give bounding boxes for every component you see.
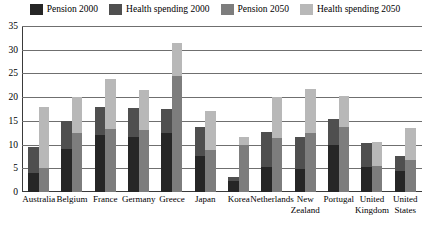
bar-pension-2050 bbox=[305, 133, 316, 192]
bar-pension-2050 bbox=[39, 168, 50, 192]
bar-pension-2050 bbox=[72, 133, 83, 192]
y-axis-tick-label: 25 bbox=[9, 68, 19, 78]
bar-group bbox=[89, 26, 122, 192]
bar-pension-2050 bbox=[339, 127, 350, 192]
y-axis: 05101520253035 bbox=[0, 26, 22, 192]
bar-group bbox=[122, 26, 155, 192]
y-axis-tick-label: 30 bbox=[9, 45, 19, 55]
bar-chart: Pension 2000Health spending 2000Pension … bbox=[0, 0, 430, 236]
bar-pension-2050 bbox=[405, 160, 416, 192]
legend-label: Pension 2000 bbox=[47, 4, 98, 15]
y-axis-tick-label: 35 bbox=[9, 21, 19, 31]
legend-label: Pension 2050 bbox=[238, 4, 289, 15]
bar-pension-2000 bbox=[261, 167, 272, 192]
legend-label: Health spending 2000 bbox=[126, 4, 209, 15]
bar-group bbox=[355, 26, 388, 192]
bar-pension-2000 bbox=[128, 137, 139, 192]
bar-pension-2000 bbox=[61, 149, 72, 192]
bar-pension-2050 bbox=[239, 145, 250, 192]
bar-pension-2050 bbox=[105, 129, 116, 192]
bar-pension-2050 bbox=[205, 150, 216, 192]
legend-item-pension-2000[interactable]: Pension 2000 bbox=[30, 4, 98, 15]
y-axis-tick-label: 15 bbox=[9, 116, 19, 126]
legend-swatch-icon bbox=[30, 4, 43, 15]
bar-pension-2050 bbox=[139, 130, 150, 192]
bar-group bbox=[55, 26, 88, 192]
y-axis-tick-label: 20 bbox=[9, 92, 19, 102]
bar-pension-2000 bbox=[195, 156, 206, 192]
legend-swatch-icon bbox=[221, 4, 234, 15]
bar-pension-2000 bbox=[328, 145, 339, 192]
bar-pension-2000 bbox=[395, 171, 406, 192]
bar-pension-2000 bbox=[95, 135, 106, 192]
bar-pension-2000 bbox=[295, 169, 306, 192]
legend-swatch-icon bbox=[109, 4, 122, 15]
bar-group bbox=[189, 26, 222, 192]
x-axis-labels: AustraliaBelgiumFranceGermanyGreeceJapan… bbox=[22, 194, 422, 234]
bar-group bbox=[289, 26, 322, 192]
bar-pension-2000 bbox=[161, 133, 172, 192]
bar-pension-2000 bbox=[28, 173, 39, 192]
chart-legend: Pension 2000Health spending 2000Pension … bbox=[0, 0, 430, 18]
bar-group bbox=[22, 26, 55, 192]
bar-group bbox=[322, 26, 355, 192]
bar-pension-2050 bbox=[372, 166, 383, 192]
bar-pension-2000 bbox=[228, 181, 239, 192]
bar-group bbox=[255, 26, 288, 192]
plot-area bbox=[22, 26, 422, 192]
legend-item-health-2050[interactable]: Health spending 2050 bbox=[300, 4, 400, 15]
legend-swatch-icon bbox=[300, 4, 313, 15]
y-axis-tick-label: 10 bbox=[9, 140, 19, 150]
bar-pension-2000 bbox=[361, 167, 372, 192]
bar-pension-2050 bbox=[272, 138, 283, 192]
bar-pension-2050 bbox=[172, 76, 183, 192]
legend-item-pension-2050[interactable]: Pension 2050 bbox=[221, 4, 289, 15]
y-axis-tick-label: 5 bbox=[13, 163, 18, 173]
bar-group bbox=[389, 26, 422, 192]
bar-group bbox=[155, 26, 188, 192]
legend-label: Health spending 2050 bbox=[317, 4, 400, 15]
legend-item-health-2000[interactable]: Health spending 2000 bbox=[109, 4, 209, 15]
bar-group bbox=[222, 26, 255, 192]
x-axis-label: United States bbox=[383, 194, 428, 215]
